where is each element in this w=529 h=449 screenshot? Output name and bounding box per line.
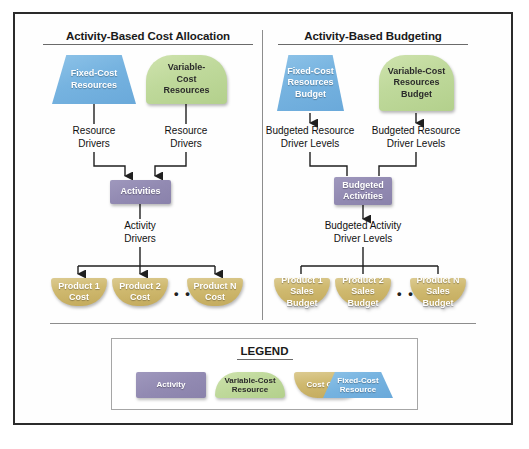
- node-label: Product 1 Cost: [58, 281, 100, 304]
- node-product-1-cost[interactable]: Product 1 Cost: [51, 278, 107, 306]
- label-budgeted-resource-driver-levels-fixed: Budgeted Resource Driver Levels: [255, 125, 365, 150]
- label-budgeted-resource-driver-levels-variable: Budgeted Resource Driver Levels: [361, 125, 471, 150]
- node-fixed-cost-resources-budget[interactable]: Fixed-Cost Resources Budget: [277, 55, 344, 111]
- label-text: Resource Drivers: [73, 125, 116, 149]
- panel-divider-vertical: [262, 30, 263, 320]
- node-product-2-cost[interactable]: Product 2 Cost: [112, 278, 168, 306]
- legend-item-fixed-cost-resource[interactable]: Fixed-Cost Resource: [323, 372, 393, 398]
- legend-item-label: Fixed-Cost Resource: [337, 376, 378, 395]
- diagram-page: Activity-Based Cost Allocation Activity-…: [0, 0, 529, 449]
- node-label: Product 2 Sales Budget: [335, 275, 391, 310]
- node-label: Fixed-Cost Resources Budget: [287, 66, 334, 101]
- node-product-2-sales-budget[interactable]: Product 2 Sales Budget: [335, 278, 391, 306]
- node-label: Product N Cost: [193, 281, 236, 304]
- label-resource-drivers-variable: Resource Drivers: [146, 125, 226, 150]
- legend-panel: LEGEND Activity Variable-Cost Resource C…: [111, 338, 418, 410]
- legend-divider-horizontal: [50, 323, 476, 324]
- node-budgeted-activities[interactable]: Budgeted Activities: [334, 177, 392, 205]
- node-label: Product 1 Sales Budget: [274, 275, 330, 310]
- panel-title-cost-allocation: Activity-Based Cost Allocation: [43, 30, 253, 45]
- panel-title-budgeting: Activity-Based Budgeting: [278, 30, 468, 45]
- label-budgeted-activity-driver-levels: Budgeted Activity Driver Levels: [308, 220, 418, 245]
- node-label: Fixed-Cost Resources: [71, 68, 118, 91]
- node-activities[interactable]: Activities: [110, 180, 171, 204]
- node-product-1-sales-budget[interactable]: Product 1 Sales Budget: [274, 278, 330, 306]
- label-text: Activity Drivers: [124, 220, 156, 244]
- node-label: Variable- Cost Resources: [163, 62, 209, 97]
- node-product-n-cost[interactable]: Product N Cost: [187, 278, 243, 306]
- legend-title-underline: [237, 359, 293, 360]
- legend-item-label: Activity: [157, 380, 186, 390]
- node-label: Product 2 Cost: [119, 281, 161, 304]
- node-product-n-sales-budget[interactable]: Product N Sales Budget: [410, 278, 466, 306]
- panel-title-budgeting-text: Activity-Based Budgeting: [304, 30, 442, 42]
- label-resource-drivers-fixed: Resource Drivers: [54, 125, 134, 150]
- label-text: Budgeted Activity Driver Levels: [325, 220, 402, 244]
- legend-title: LEGEND: [112, 345, 417, 360]
- title-underline: [278, 44, 468, 45]
- label-text: Resource Drivers: [165, 125, 208, 149]
- label-activity-drivers: Activity Drivers: [100, 220, 180, 245]
- legend-item-label: Variable-Cost Resource: [224, 376, 275, 395]
- node-label: Activities: [120, 186, 160, 198]
- node-variable-cost-resources-budget[interactable]: Variable-Cost Resources Budget: [379, 55, 454, 111]
- legend-item-activity[interactable]: Activity: [136, 372, 206, 398]
- label-text: Budgeted Resource Driver Levels: [266, 125, 354, 149]
- legend-title-text: LEGEND: [241, 345, 289, 357]
- node-label: Variable-Cost Resources Budget: [388, 66, 446, 101]
- label-text: Budgeted Resource Driver Levels: [372, 125, 460, 149]
- node-fixed-cost-resources[interactable]: Fixed-Cost Resources: [52, 55, 136, 104]
- panel-title-cost-allocation-text: Activity-Based Cost Allocation: [66, 30, 230, 42]
- node-label: Product N Sales Budget: [410, 275, 466, 310]
- node-variable-cost-resources[interactable]: Variable- Cost Resources: [146, 55, 227, 104]
- legend-item-variable-cost-resource[interactable]: Variable-Cost Resource: [215, 372, 285, 398]
- title-underline: [43, 44, 253, 45]
- node-label: Budgeted Activities: [342, 180, 384, 203]
